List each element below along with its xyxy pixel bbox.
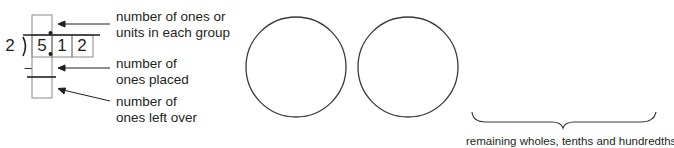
label-line: number of (116, 56, 189, 72)
division-bracket (23, 37, 26, 56)
label-ones-left-over: number of ones left over (116, 94, 197, 126)
label-ones-placed: number of ones placed (116, 56, 189, 88)
arrow-line-3 (63, 90, 110, 101)
digit-hundredths: 2 (72, 36, 92, 56)
arrow-head-3-icon (58, 88, 66, 94)
digit-ones: 5 (32, 36, 52, 56)
whole-circle-1 (246, 17, 346, 117)
decimal-point-top (49, 31, 53, 35)
label-line: ones left over (116, 110, 197, 126)
label-line: ones placed (116, 72, 189, 88)
diagram-canvas (0, 0, 674, 148)
curly-brace (472, 112, 656, 128)
label-line: units in each group (116, 25, 230, 41)
arrow-head-1-icon (58, 21, 65, 27)
divisor: 2 (0, 36, 20, 56)
whole-circle-2 (358, 17, 458, 117)
arrow-head-2-icon (58, 65, 65, 71)
label-ones-in-each-group: number of ones or units in each group (116, 9, 230, 41)
label-line: number of ones or (116, 9, 230, 25)
label-line: number of (116, 94, 197, 110)
digit-tenths: 1 (52, 36, 72, 56)
brace-label: remaining wholes, tenths and hundredths (466, 133, 662, 148)
minus-sign: – (18, 58, 38, 78)
